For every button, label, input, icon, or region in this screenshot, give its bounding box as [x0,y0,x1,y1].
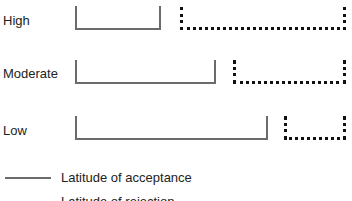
acceptance-bracket-moderate [75,60,216,84]
acceptance-bracket-low [75,116,268,140]
acceptance-bracket-high [75,6,161,30]
legend-label-acceptance: Latitude of acceptance [61,171,192,184]
row-label-low: Low [3,124,27,137]
legend-solid-line-icon [5,177,51,179]
rejection-bracket-high [180,7,346,30]
legend-label-rejection: Latitude of rejection [61,195,174,201]
rejection-bracket-low [284,116,346,140]
row-label-high: High [3,14,30,27]
rejection-bracket-moderate [233,60,346,84]
row-label-moderate: Moderate [3,67,58,80]
